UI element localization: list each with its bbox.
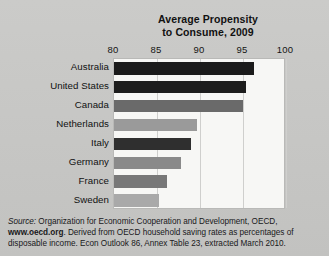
bar-germany <box>114 157 181 169</box>
bar-row: Netherlands <box>114 116 284 135</box>
plot-area: AustraliaUnited StatesCanadaNetherlandsI… <box>113 58 285 209</box>
category-label-united-states: United States <box>50 80 109 91</box>
bar-australia <box>114 62 254 74</box>
x-axis-tick-labels: 80859095100 <box>0 44 329 57</box>
x-tick-label-80: 80 <box>108 44 119 55</box>
source-line-1: Organization for Economic Cooperation an… <box>36 217 277 226</box>
category-label-sweden: Sweden <box>74 194 109 205</box>
category-label-france: France <box>79 175 109 186</box>
bar-netherlands <box>114 119 197 131</box>
bar-row: United States <box>114 78 284 97</box>
source-line-2: . Derived from OECD household saving rat… <box>63 228 284 237</box>
bar-france <box>114 175 167 187</box>
category-label-germany: Germany <box>69 156 109 167</box>
chart-title: Average Propensity to Consume, 2009 <box>108 13 308 38</box>
chart-figure: Average Propensity to Consume, 2009 8085… <box>0 0 329 256</box>
bar-row: Canada <box>114 97 284 116</box>
bar-canada <box>114 100 243 112</box>
x-tick-label-95: 95 <box>237 44 248 55</box>
chart-title-line-1: Average Propensity <box>108 13 308 26</box>
x-tick-label-90: 90 <box>194 44 205 55</box>
source-url: www.oecd.org <box>8 228 63 237</box>
bar-row: France <box>114 172 284 191</box>
bar-row: Germany <box>114 153 284 172</box>
category-label-australia: Australia <box>71 61 109 72</box>
bar-row: Australia <box>114 59 284 78</box>
bar-rows: AustraliaUnited StatesCanadaNetherlandsI… <box>114 59 284 208</box>
chart-title-line-2: to Consume, 2009 <box>108 26 308 39</box>
bar-united-states <box>114 81 246 93</box>
source-note: Source: Organization for Economic Cooper… <box>8 216 323 250</box>
category-label-netherlands: Netherlands <box>56 118 109 129</box>
x-tick-label-100: 100 <box>277 44 293 55</box>
bar-italy <box>114 138 191 150</box>
category-label-italy: Italy <box>91 137 109 148</box>
x-tick-label-85: 85 <box>151 44 162 55</box>
source-lead: Source: <box>8 217 36 226</box>
bar-sweden <box>114 194 159 206</box>
bar-row: Sweden <box>114 191 284 210</box>
gridline-100 <box>286 59 287 208</box>
category-label-canada: Canada <box>75 99 109 110</box>
bar-row: Italy <box>114 135 284 154</box>
